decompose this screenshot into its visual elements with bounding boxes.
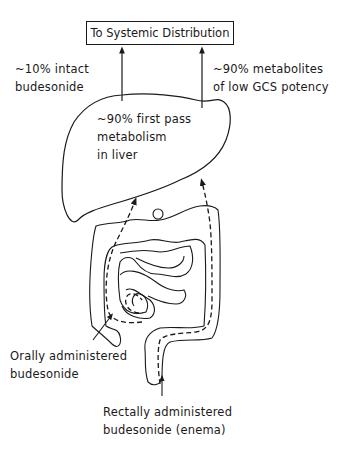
oral-pointer-arrow-icon: [93, 316, 111, 340]
anatomy-diagram: [0, 0, 341, 454]
colon-outline: [90, 206, 220, 385]
liver-outline: [62, 94, 230, 222]
liver-to-systemic-arrows: [122, 50, 202, 108]
rectal-route-path: [158, 182, 212, 384]
small-intestine-outline: [119, 246, 193, 319]
